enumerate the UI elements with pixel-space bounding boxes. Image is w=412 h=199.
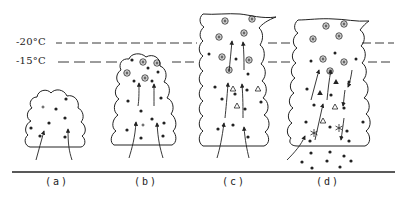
cloud-d-ice-crystals — [310, 21, 347, 74]
cloud-b — [111, 54, 176, 145]
cloud-development-diagram — [0, 0, 412, 199]
cloud-c-ice-crystals — [216, 16, 255, 73]
rain-below-cloud-d — [300, 150, 352, 169]
cloud-b-droplets — [125, 58, 165, 139]
cloud-d-droplets — [304, 52, 364, 143]
cloud-c-graupel — [230, 86, 261, 108]
cloud-d-snowflakes — [311, 124, 343, 137]
cloud-a-updrafts — [36, 129, 72, 160]
cloud-b-updrafts — [129, 83, 163, 158]
cloud-c — [199, 14, 276, 146]
cloud-a-droplets — [29, 97, 67, 138]
cloud-c-droplets — [208, 53, 263, 139]
cloud-b-ice-crystals — [124, 59, 160, 81]
cloud-a — [25, 90, 85, 147]
